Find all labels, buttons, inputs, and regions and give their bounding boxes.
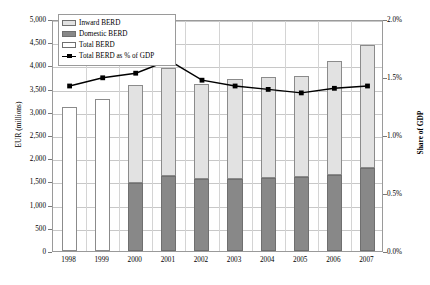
bar-group xyxy=(360,19,375,251)
bar-segment-total-berd xyxy=(95,99,110,251)
bar-segment-domestic-berd xyxy=(261,178,276,251)
category-divider xyxy=(351,21,352,251)
chart-container: EUR (millions) Share of GDP 05001,0001,5… xyxy=(0,0,430,285)
legend-swatch-domestic-icon xyxy=(62,31,76,37)
y-axis-left-tick-label: 1,500 xyxy=(0,178,46,186)
y-axis-right-tick-mark xyxy=(383,20,387,21)
chart-legend: Inward BERD Domestic BERD Total BERD Tot… xyxy=(58,14,176,66)
x-axis-tick-label: 2004 xyxy=(251,256,284,265)
legend-label-gdp-share: Total BERD as % of GDP xyxy=(79,52,154,60)
bar-segment-inward-berd xyxy=(360,45,375,168)
x-axis-tick-label: 2007 xyxy=(350,256,383,265)
y-axis-left-tick-label: 0 xyxy=(0,248,46,256)
legend-label-domestic: Domestic BERD xyxy=(79,30,128,38)
y-axis-right-tick-mark xyxy=(383,136,387,137)
x-axis-tick-label: 2005 xyxy=(284,256,317,265)
bar-group xyxy=(227,19,242,251)
y-axis-left-tick-label: 4,000 xyxy=(0,62,46,70)
bar-segment-domestic-berd xyxy=(294,177,309,252)
legend-swatch-inward-icon xyxy=(62,20,76,26)
legend-swatch-total-icon xyxy=(62,42,76,48)
x-axis-tick-label: 2001 xyxy=(151,256,184,265)
y-axis-left-tick-label: 5,000 xyxy=(0,16,46,24)
y-axis-left-tick-mark xyxy=(48,252,52,253)
bar-segment-domestic-berd xyxy=(128,183,143,251)
x-axis-tick-label: 2002 xyxy=(184,256,217,265)
y-axis-left-tick-label: 4,500 xyxy=(0,39,46,47)
bar-segment-inward-berd xyxy=(227,79,242,179)
bar-segment-inward-berd xyxy=(327,61,342,175)
bar-segment-inward-berd xyxy=(194,84,209,179)
y-axis-right-tick-mark xyxy=(383,194,387,195)
bar-segment-inward-berd xyxy=(128,85,143,183)
bar-segment-inward-berd xyxy=(294,76,309,177)
bar-segment-domestic-berd xyxy=(161,176,176,251)
bar-group xyxy=(261,19,276,251)
x-axis-tick-label: 1999 xyxy=(85,256,118,265)
y-axis-right-tick-label: 2.0% xyxy=(387,16,429,24)
bar-segment-inward-berd xyxy=(161,68,176,177)
bar-segment-domestic-berd xyxy=(227,179,242,251)
legend-item-domestic-berd: Domestic BERD xyxy=(62,29,172,39)
category-divider xyxy=(219,21,220,251)
legend-item-inward-berd: Inward BERD xyxy=(62,18,172,28)
bar-group xyxy=(294,19,309,251)
y-axis-left-tick-label: 1,000 xyxy=(0,202,46,210)
y-axis-right-tick-label: 0.5% xyxy=(387,190,429,198)
bar-segment-domestic-berd xyxy=(194,179,209,251)
category-divider xyxy=(318,21,319,251)
x-axis-tick-label: 1998 xyxy=(52,256,85,265)
bar-segment-domestic-berd xyxy=(327,175,342,251)
bar-segment-domestic-berd xyxy=(360,168,375,251)
bar-group xyxy=(194,19,209,251)
y-axis-right-tick-label: 0.0% xyxy=(387,248,429,256)
y-axis-right-tick-mark xyxy=(383,252,387,253)
bar-segment-inward-berd xyxy=(261,77,276,178)
legend-label-total: Total BERD xyxy=(79,41,115,49)
y-axis-right-tick-mark xyxy=(383,78,387,79)
bar-group xyxy=(327,19,342,251)
category-divider xyxy=(285,21,286,251)
y-axis-left-tick-label: 2,000 xyxy=(0,155,46,163)
category-divider xyxy=(185,21,186,251)
y-axis-left-tick-label: 2,500 xyxy=(0,132,46,140)
y-axis-left-tick-label: 3,000 xyxy=(0,109,46,117)
y-axis-left-tick-label: 500 xyxy=(0,225,46,233)
legend-swatch-line-marker-icon xyxy=(62,53,76,59)
legend-item-total-berd: Total BERD xyxy=(62,40,172,50)
x-axis-tick-label: 2000 xyxy=(118,256,151,265)
category-divider xyxy=(252,21,253,251)
y-axis-right-tick-label: 1.5% xyxy=(387,74,429,82)
x-axis-tick-label: 2003 xyxy=(218,256,251,265)
legend-label-inward: Inward BERD xyxy=(79,19,120,27)
bar-segment-total-berd xyxy=(62,107,77,251)
legend-item-gdp-share-line: Total BERD as % of GDP xyxy=(62,51,172,61)
y-axis-left-tick-label: 3,500 xyxy=(0,86,46,94)
y-axis-right-tick-label: 1.0% xyxy=(387,132,429,140)
x-axis-tick-label: 2006 xyxy=(317,256,350,265)
